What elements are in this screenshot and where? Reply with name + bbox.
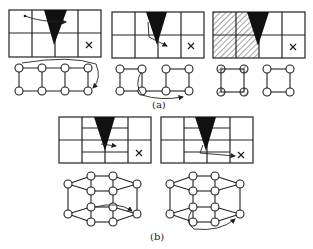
- graph-a2: [116, 65, 193, 95]
- target-x-a2: [188, 43, 194, 49]
- target-x-a1: [86, 42, 92, 48]
- graph-b1: [64, 172, 141, 226]
- wedge-b2: [195, 117, 216, 151]
- figure-canvas: [0, 0, 313, 249]
- wrap-arrow-a1: [22, 59, 98, 88]
- caption-a: (a): [152, 99, 166, 110]
- graph-b2: [166, 172, 244, 226]
- graph-a1: [15, 64, 92, 95]
- target-x-b1: [136, 150, 142, 156]
- caption-b: (b): [150, 231, 164, 242]
- target-x-b2: [238, 152, 244, 158]
- wedge-a2: [146, 12, 167, 45]
- target-x-a3: [290, 44, 296, 50]
- wedge-a1: [44, 10, 67, 45]
- graph-a3: [217, 65, 294, 96]
